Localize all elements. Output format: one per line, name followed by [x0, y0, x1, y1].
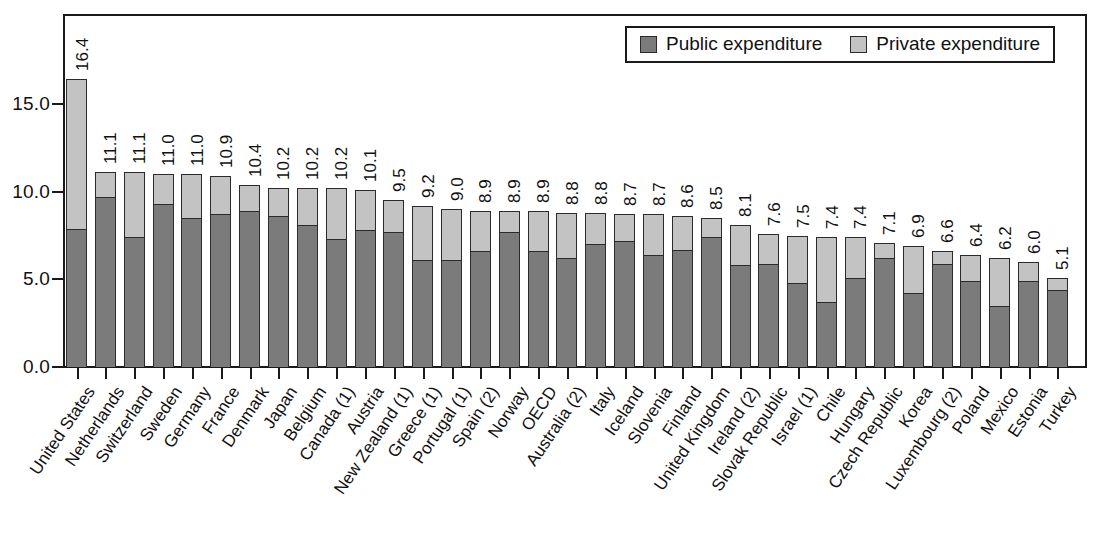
bar-group[interactable]: 8.9	[528, 211, 549, 367]
bar-segment-private[interactable]	[701, 218, 722, 237]
bar-segment-private[interactable]	[412, 206, 433, 260]
bar-segment-private[interactable]	[528, 211, 549, 251]
bar-group[interactable]: 10.4	[239, 185, 260, 367]
bar-group[interactable]: 9.2	[412, 206, 433, 367]
bar-group[interactable]: 8.5	[701, 218, 722, 367]
bar-segment-private[interactable]	[585, 213, 606, 245]
bar-group[interactable]: 8.8	[585, 213, 606, 367]
bar-segment-private[interactable]	[816, 237, 837, 302]
bar-segment-private[interactable]	[556, 213, 577, 259]
bar-segment-private[interactable]	[614, 214, 635, 240]
bar-segment-public[interactable]	[268, 216, 289, 367]
bar-group[interactable]: 7.5	[787, 236, 808, 368]
bar-group[interactable]: 8.7	[614, 214, 635, 367]
bar-group[interactable]: 6.2	[989, 258, 1010, 367]
bar-segment-public[interactable]	[989, 306, 1010, 367]
bar-group[interactable]: 10.9	[210, 176, 231, 367]
bar-segment-private[interactable]	[181, 174, 202, 218]
bar-group[interactable]: 5.1	[1047, 278, 1068, 367]
bar-segment-public[interactable]	[730, 265, 751, 367]
bar-segment-public[interactable]	[758, 264, 779, 367]
bar-segment-public[interactable]	[1018, 281, 1039, 367]
bar-group[interactable]: 8.6	[672, 216, 693, 367]
bar-segment-private[interactable]	[499, 211, 520, 232]
bar-segment-public[interactable]	[960, 281, 981, 367]
bar-segment-public[interactable]	[239, 211, 260, 367]
bar-segment-public[interactable]	[66, 229, 87, 368]
bar-group[interactable]: 8.1	[730, 225, 751, 367]
bar-group[interactable]: 7.6	[758, 234, 779, 367]
bar-group[interactable]: 9.0	[441, 209, 462, 367]
bar-segment-public[interactable]	[470, 251, 491, 367]
bar-segment-private[interactable]	[124, 172, 145, 237]
bar-segment-public[interactable]	[412, 260, 433, 367]
bar-segment-private[interactable]	[672, 216, 693, 249]
bar-group[interactable]: 6.4	[960, 255, 981, 367]
bar-segment-private[interactable]	[95, 172, 116, 197]
bar-segment-private[interactable]	[383, 200, 404, 232]
bar-group[interactable]: 11.0	[181, 174, 202, 367]
bar-segment-private[interactable]	[730, 225, 751, 265]
bar-segment-private[interactable]	[210, 176, 231, 215]
bar-group[interactable]: 11.1	[95, 172, 116, 367]
bar-group[interactable]: 7.4	[845, 237, 866, 367]
bar-segment-private[interactable]	[903, 246, 924, 293]
bar-segment-private[interactable]	[960, 255, 981, 281]
bar-segment-public[interactable]	[643, 255, 664, 367]
bar-segment-private[interactable]	[1018, 262, 1039, 281]
bar-segment-public[interactable]	[816, 302, 837, 367]
bar-group[interactable]: 10.2	[326, 188, 347, 367]
bar-group[interactable]: 6.9	[903, 246, 924, 367]
bar-segment-public[interactable]	[845, 278, 866, 367]
bar-segment-private[interactable]	[1047, 278, 1068, 290]
bar-segment-private[interactable]	[845, 237, 866, 277]
bar-group[interactable]: 10.1	[355, 190, 376, 367]
bar-segment-public[interactable]	[499, 232, 520, 367]
bar-segment-public[interactable]	[181, 218, 202, 367]
bar-segment-public[interactable]	[210, 214, 231, 367]
bar-segment-public[interactable]	[383, 232, 404, 367]
bar-segment-private[interactable]	[989, 258, 1010, 305]
bar-segment-public[interactable]	[297, 225, 318, 367]
bar-segment-public[interactable]	[556, 258, 577, 367]
bar-segment-private[interactable]	[66, 79, 87, 228]
bar-group[interactable]: 10.2	[297, 188, 318, 367]
bar-segment-private[interactable]	[268, 188, 289, 216]
bar-segment-public[interactable]	[1047, 290, 1068, 367]
bar-segment-public[interactable]	[585, 244, 606, 367]
bar-group[interactable]: 8.9	[470, 211, 491, 367]
bar-segment-private[interactable]	[874, 243, 895, 259]
bar-group[interactable]: 7.4	[816, 237, 837, 367]
bar-group[interactable]: 7.1	[874, 243, 895, 367]
bar-segment-private[interactable]	[297, 188, 318, 225]
bar-segment-private[interactable]	[153, 174, 174, 204]
bar-group[interactable]: 8.8	[556, 213, 577, 367]
bar-group[interactable]: 8.7	[643, 214, 664, 367]
bar-segment-public[interactable]	[95, 197, 116, 367]
bar-segment-public[interactable]	[614, 241, 635, 367]
bar-segment-public[interactable]	[787, 283, 808, 367]
bar-segment-public[interactable]	[701, 237, 722, 367]
bar-group[interactable]: 16.4	[66, 79, 87, 367]
bar-segment-private[interactable]	[441, 209, 462, 260]
bar-group[interactable]: 11.0	[153, 174, 174, 367]
legend-entry-private[interactable]: Private expenditure	[850, 33, 1040, 55]
bar-segment-public[interactable]	[932, 264, 953, 367]
bar-segment-public[interactable]	[874, 258, 895, 367]
bar-group[interactable]: 11.1	[124, 172, 145, 367]
legend-entry-public[interactable]: Public expenditure	[640, 33, 822, 55]
bar-group[interactable]: 8.9	[499, 211, 520, 367]
bar-group[interactable]: 6.6	[932, 251, 953, 367]
bar-segment-public[interactable]	[124, 237, 145, 367]
bar-segment-public[interactable]	[528, 251, 549, 367]
bar-segment-public[interactable]	[672, 250, 693, 367]
bar-group[interactable]: 9.5	[383, 200, 404, 367]
bar-segment-private[interactable]	[787, 236, 808, 283]
bar-segment-private[interactable]	[643, 214, 664, 254]
bar-group[interactable]: 6.0	[1018, 262, 1039, 367]
bar-segment-public[interactable]	[355, 230, 376, 367]
bar-segment-private[interactable]	[758, 234, 779, 264]
bar-segment-public[interactable]	[326, 239, 347, 367]
bar-segment-private[interactable]	[239, 185, 260, 211]
bar-segment-public[interactable]	[903, 293, 924, 367]
